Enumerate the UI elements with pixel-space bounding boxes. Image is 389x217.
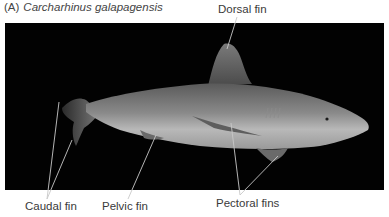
label-pectoral-fins: Pectoral fins <box>216 197 279 209</box>
label-dorsal-fin: Dorsal fin <box>218 3 267 15</box>
pelvic-fin-leader <box>128 135 156 199</box>
label-caudal-fin: Caudal fin <box>25 200 77 212</box>
eye-shape <box>325 117 328 120</box>
label-pelvic-fin: Pelvic fin <box>102 200 148 212</box>
pectoral-fin-far-shape <box>256 148 288 162</box>
dorsal-fin-shape <box>208 44 252 87</box>
shark-illustration <box>0 0 389 217</box>
shark-body-shape <box>86 84 369 149</box>
pectoral-fin-leader-2 <box>240 156 278 195</box>
dorsal-fin-leader <box>227 17 237 49</box>
